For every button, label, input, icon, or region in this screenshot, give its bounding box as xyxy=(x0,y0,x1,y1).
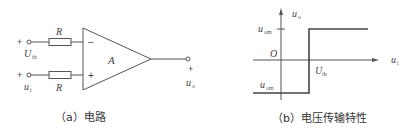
high-level-sub: om xyxy=(264,29,272,35)
top-input-sub: th xyxy=(32,54,37,60)
top-input-plus: + xyxy=(17,37,22,47)
circuit-caption: （a）电路 xyxy=(55,111,106,124)
transfer-caption: （b）电压传输特性 xyxy=(272,111,367,125)
amplifier-label: A xyxy=(107,54,115,66)
figure-canvas: + U th R + u i R − + A + u o （a）电路 u o u… xyxy=(0,0,411,136)
noninverting-sign: + xyxy=(88,70,94,81)
y-axis-arrow xyxy=(279,8,283,15)
bottom-input-sub: i xyxy=(30,87,32,93)
y-axis-sub: o xyxy=(298,14,301,20)
bottom-input-plus: + xyxy=(17,70,22,80)
resistor-bottom xyxy=(49,72,71,79)
x-axis-label: u xyxy=(391,54,396,65)
output-label: u xyxy=(186,77,191,88)
output-terminal xyxy=(186,57,190,61)
low-level-sub: om xyxy=(266,85,274,91)
high-level-label: u xyxy=(258,23,263,34)
y-axis-label: u xyxy=(292,8,297,19)
inverting-sign: − xyxy=(88,37,94,48)
bottom-input-label: u xyxy=(24,81,29,92)
top-input-label: U xyxy=(24,48,32,59)
input-terminal-bottom xyxy=(27,73,31,77)
input-terminal-top xyxy=(27,40,31,44)
resistor-bottom-label: R xyxy=(55,82,62,93)
x-axis-sub: i xyxy=(397,60,399,66)
transfer-curve xyxy=(253,29,368,93)
output-sub: o xyxy=(192,83,195,89)
low-level-label: u xyxy=(260,79,265,90)
origin-label: O xyxy=(270,48,277,59)
resistor-top-label: R xyxy=(55,26,62,37)
resistor-top xyxy=(49,39,71,46)
output-plus: + xyxy=(188,64,193,74)
x-axis-arrow xyxy=(372,58,379,62)
threshold-sub: th xyxy=(322,71,327,77)
